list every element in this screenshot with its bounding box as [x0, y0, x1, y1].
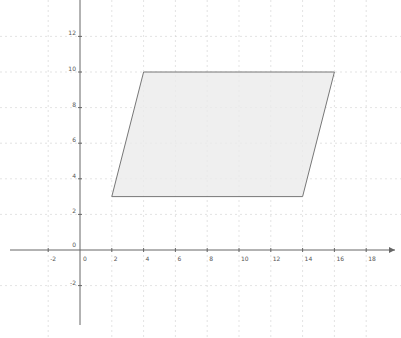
y-tick-label: 10	[68, 65, 76, 72]
x-tick-label: 4	[146, 255, 150, 262]
origin-label-x: 0	[83, 255, 87, 262]
x-tick-label: 18	[368, 255, 376, 262]
x-tick-label: 8	[209, 255, 213, 262]
x-tick-label: -2	[50, 255, 56, 262]
x-axis-arrow-icon	[389, 247, 395, 253]
y-tick-label: 6	[72, 136, 76, 143]
y-tick-label: -2	[70, 279, 76, 286]
x-tick-label: 14	[305, 255, 313, 262]
x-tick-label: 16	[336, 255, 344, 262]
y-tick-label: 2	[72, 207, 76, 214]
y-tick-label: 4	[72, 172, 76, 179]
parallelogram-shape	[112, 72, 335, 197]
origin-label-y: 0	[72, 241, 76, 248]
x-tick-label: 12	[273, 255, 281, 262]
coordinate-plane: -224681012141618-22468101200	[0, 0, 401, 338]
x-tick-label: 10	[241, 255, 249, 262]
x-tick-label: 2	[114, 255, 118, 262]
y-tick-label: 8	[72, 101, 76, 108]
x-tick-label: 6	[177, 255, 181, 262]
graph-canvas[interactable]: -224681012141618-22468101200	[0, 0, 401, 338]
y-tick-label: 12	[68, 29, 76, 36]
